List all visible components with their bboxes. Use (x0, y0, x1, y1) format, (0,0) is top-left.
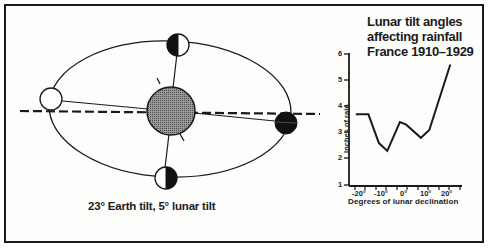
y-tick-3: 3 (338, 127, 342, 136)
x-tick-10: 10° (420, 189, 431, 198)
chart-title-line-3: France 1910–1929 (367, 44, 474, 59)
x-tick-neg10: -10° (374, 189, 388, 198)
chart-title-line-2: affecting rainfall (367, 29, 474, 44)
x-tick-20: 20° (441, 189, 452, 198)
earth-axis-north (157, 78, 160, 84)
y-tick-5: 5 (338, 75, 342, 84)
x-axis-label: Degrees of lunar declination (348, 197, 458, 206)
x-tick-neg20: -20° (352, 189, 366, 198)
chart-title: Lunar tilt angles affecting rainfall Fra… (367, 14, 474, 59)
y-axis-label: Inches of rain (342, 89, 351, 169)
diagram-caption: 23° Earth tilt, 5° lunar tilt (88, 200, 215, 212)
rainfall-line (356, 65, 451, 151)
earth-axis-south (180, 134, 184, 141)
y-tick-4: 4 (338, 101, 342, 110)
y-tick-6: 6 (338, 49, 342, 58)
line-to-full-moon (52, 100, 148, 109)
line-to-last-quarter (165, 134, 169, 168)
earth-icon (147, 87, 195, 135)
x-tick-0: 0° (400, 189, 407, 198)
y-tick-2: 2 (338, 153, 342, 162)
full-moon-icon (40, 88, 62, 110)
last-quarter-moon-icon (155, 167, 177, 189)
chart-title-line-1: Lunar tilt angles (367, 14, 474, 29)
y-tick-1: 1 (338, 180, 342, 189)
chart-axes (344, 53, 462, 190)
first-quarter-moon-icon (167, 34, 189, 56)
